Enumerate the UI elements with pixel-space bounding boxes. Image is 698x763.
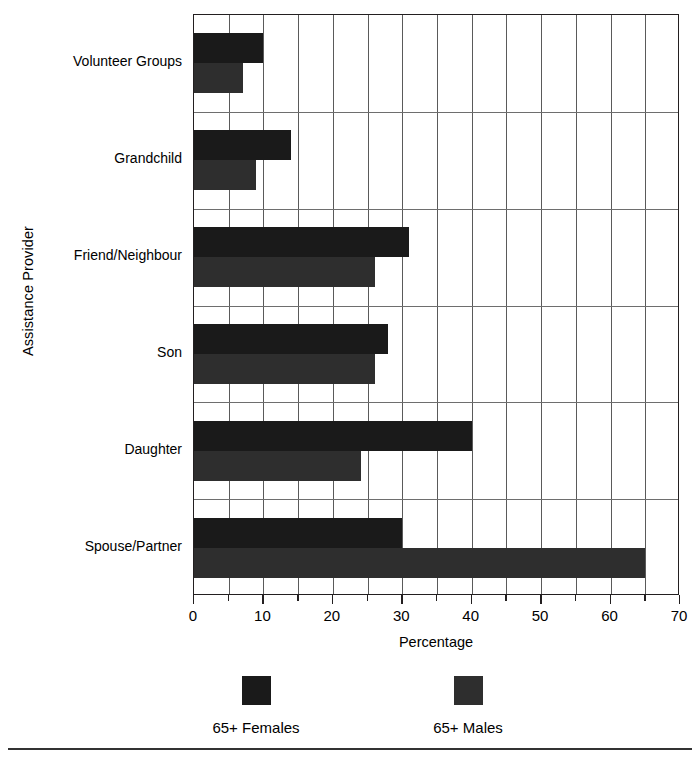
x-tick-major-10	[262, 595, 263, 604]
horizontal-gridline	[194, 402, 678, 403]
x-tick-minor-55	[575, 595, 576, 601]
legend-item-65-males: 65+ Males	[368, 676, 568, 736]
x-tick-label-50: 50	[510, 607, 570, 624]
x-tick-label-60: 60	[580, 607, 640, 624]
x-tick-major-40	[471, 595, 472, 604]
horizontal-gridline	[194, 499, 678, 500]
x-tick-label-20: 20	[302, 607, 362, 624]
x-tick-label-0: 0	[163, 607, 223, 624]
bar-65-males-son	[194, 354, 375, 384]
x-tick-major-30	[401, 595, 402, 604]
x-tick-minor-5	[228, 595, 229, 601]
x-tick-label-40: 40	[441, 607, 501, 624]
y-tick-label-volunteer-groups: Volunteer Groups	[2, 54, 182, 68]
y-axis-tick-labels: Volunteer GroupsGrandchildFriend/Neighbo…	[0, 0, 182, 763]
vertical-gridline	[541, 15, 542, 594]
x-tick-major-60	[610, 595, 611, 604]
bar-65-females-friend-neighbour	[194, 227, 409, 257]
plot-area	[193, 14, 679, 595]
bar-65-males-grandchild	[194, 160, 256, 190]
x-tick-label-70: 70	[649, 607, 698, 624]
x-tick-label-30: 30	[371, 607, 431, 624]
legend-label: 65+ Females	[156, 719, 356, 736]
bar-65-females-daughter	[194, 421, 472, 451]
x-tick-minor-45	[505, 595, 506, 601]
legend-swatch-65-females	[242, 676, 271, 705]
vertical-gridline	[368, 15, 369, 594]
legend-item-65-females: 65+ Females	[156, 676, 356, 736]
vertical-gridline	[437, 15, 438, 594]
vertical-gridline	[402, 15, 403, 594]
vertical-gridline	[298, 15, 299, 594]
x-tick-minor-35	[436, 595, 437, 601]
horizontal-gridline	[194, 209, 678, 210]
bar-65-females-spouse-partner	[194, 518, 402, 548]
vertical-gridline	[576, 15, 577, 594]
vertical-gridline	[472, 15, 473, 594]
bar-65-males-spouse-partner	[194, 548, 645, 578]
x-tick-major-0	[193, 595, 194, 604]
x-tick-minor-65	[644, 595, 645, 601]
horizontal-gridline	[194, 306, 678, 307]
chart-legend: 65+ Females65+ Males	[0, 676, 698, 746]
vertical-gridline	[333, 15, 334, 594]
x-tick-major-50	[540, 595, 541, 604]
vertical-gridline	[263, 15, 264, 594]
x-tick-minor-25	[367, 595, 368, 601]
vertical-gridline	[611, 15, 612, 594]
bar-65-males-friend-neighbour	[194, 257, 375, 287]
vertical-gridline	[645, 15, 646, 594]
y-tick-label-spouse-partner: Spouse/Partner	[2, 539, 182, 553]
x-axis-title: Percentage	[193, 634, 679, 650]
y-tick-label-daughter: Daughter	[2, 442, 182, 456]
bar-chart-figure: Assistance Provider Volunteer GroupsGran…	[0, 0, 698, 763]
x-tick-minor-15	[297, 595, 298, 601]
bar-65-females-grandchild	[194, 130, 291, 160]
bar-65-males-daughter	[194, 451, 361, 481]
legend-swatch-65-males	[454, 676, 483, 705]
bar-65-females-son	[194, 324, 388, 354]
bar-65-males-volunteer-groups	[194, 63, 243, 93]
x-tick-major-20	[332, 595, 333, 604]
x-tick-label-10: 10	[232, 607, 292, 624]
horizontal-gridline	[194, 112, 678, 113]
vertical-gridline	[229, 15, 230, 594]
y-tick-label-friend-neighbour: Friend/Neighbour	[2, 248, 182, 262]
y-tick-label-grandchild: Grandchild	[2, 151, 182, 165]
bar-65-females-volunteer-groups	[194, 33, 263, 63]
x-tick-major-70	[679, 595, 680, 604]
vertical-gridline	[506, 15, 507, 594]
bottom-divider	[8, 748, 692, 750]
y-tick-label-son: Son	[2, 345, 182, 359]
legend-label: 65+ Males	[368, 719, 568, 736]
